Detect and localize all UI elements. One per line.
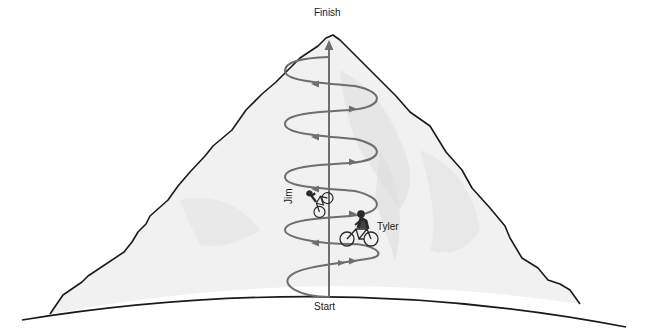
start-label: Start — [314, 301, 335, 312]
mountain — [50, 35, 580, 314]
diagram-canvas: Finish Start Tyler Jim — [0, 0, 650, 335]
cyclist-tyler-label: Tyler — [377, 221, 399, 232]
cyclist-jim-label: Jim — [283, 188, 294, 204]
finish-label: Finish — [314, 7, 341, 18]
